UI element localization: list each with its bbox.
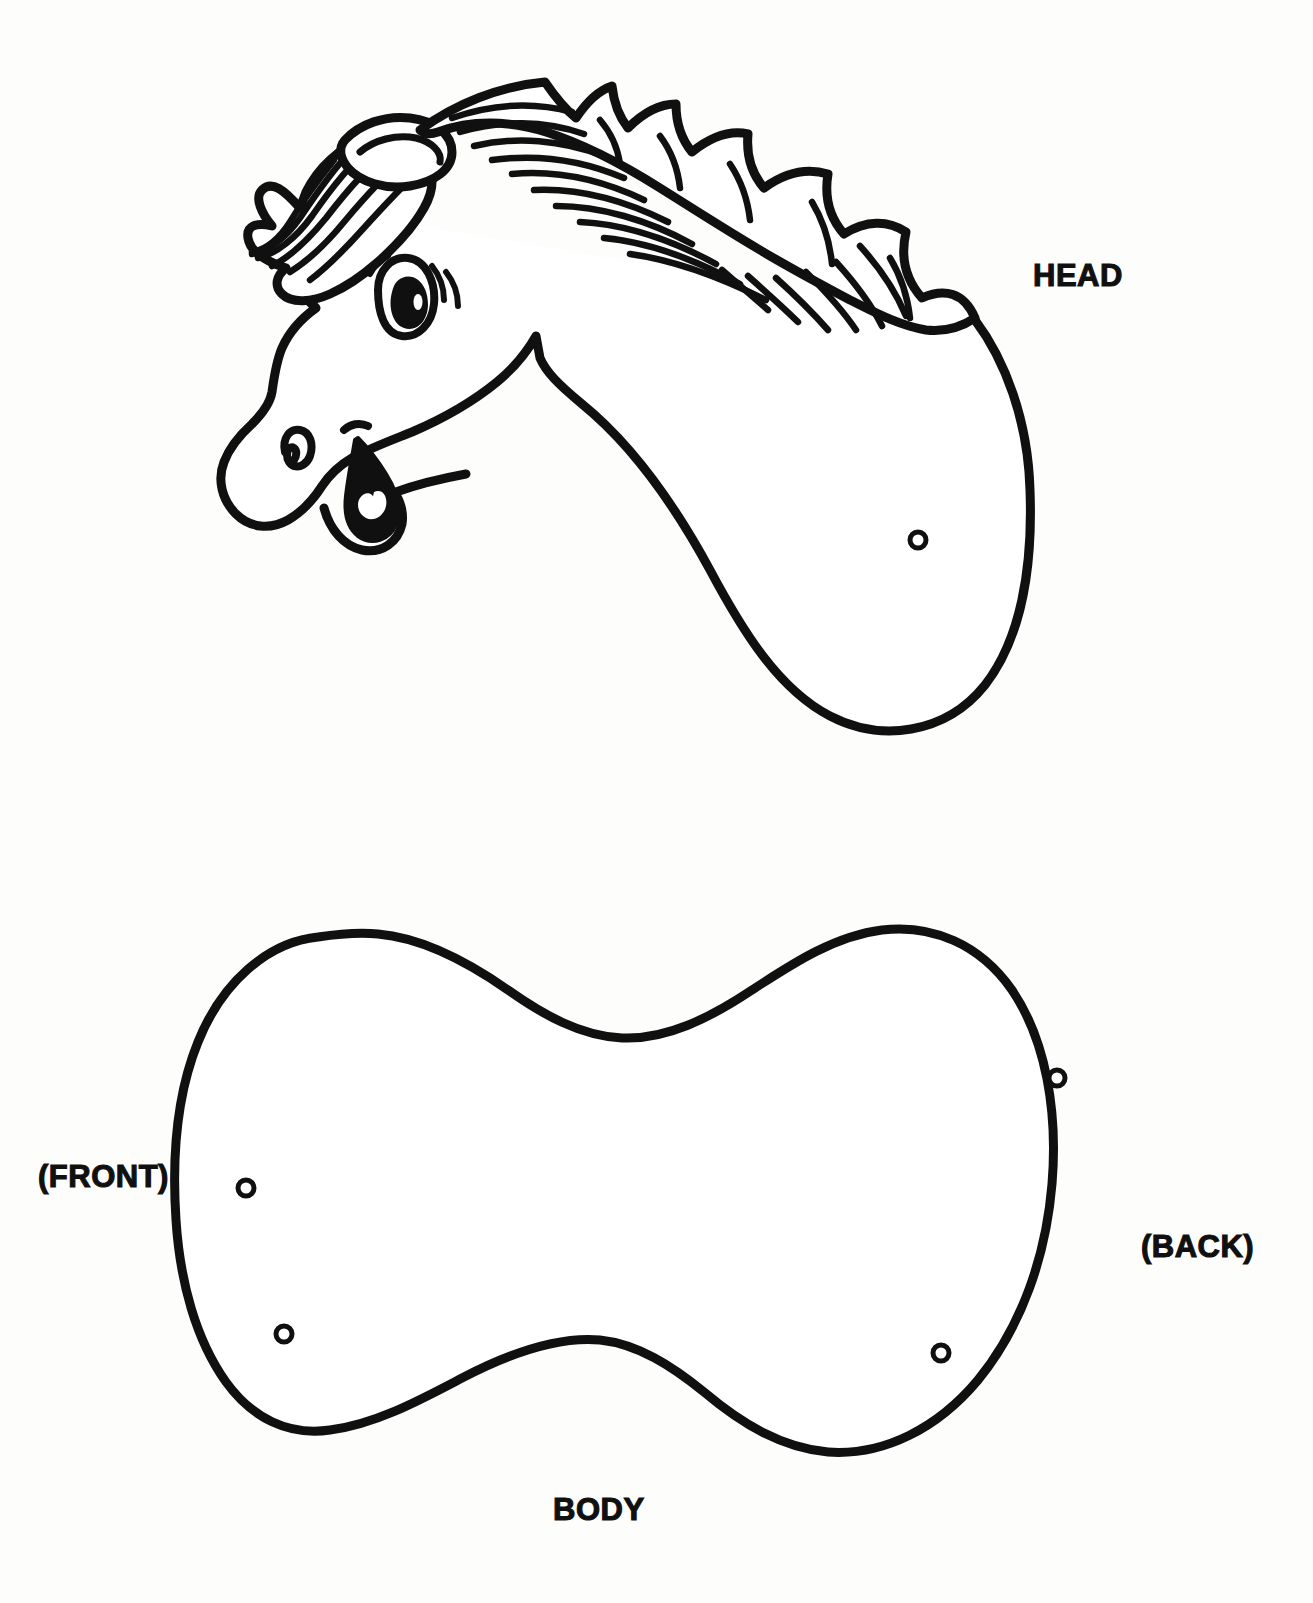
punch-hole (238, 1180, 254, 1196)
cheek-line (396, 474, 466, 492)
body-label: BODY (553, 1492, 645, 1528)
horse-template-artwork (0, 0, 1313, 1603)
punch-hole (1049, 1070, 1065, 1086)
body-piece (175, 929, 1065, 1452)
front-label: (FRONT) (38, 1159, 169, 1195)
punch-hole (276, 1326, 292, 1342)
body-outline (175, 929, 1054, 1452)
punch-hole (910, 532, 926, 548)
punch-hole (933, 1345, 949, 1361)
template-page: HEAD (FRONT) (BACK) BODY (0, 0, 1313, 1603)
eye-highlight (414, 294, 423, 310)
back-label: (BACK) (1141, 1229, 1254, 1265)
head-label: HEAD (1033, 258, 1123, 294)
head-piece (221, 82, 1031, 731)
